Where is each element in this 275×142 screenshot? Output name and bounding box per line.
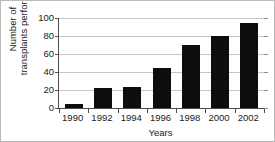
x-axis-tick-label: 1990 (62, 112, 83, 123)
bar (182, 45, 200, 108)
bar (94, 88, 112, 108)
bar-series (59, 18, 264, 108)
x-axis-tick-label: 2000 (208, 112, 229, 123)
y-axis-tick-label: 0 (31, 103, 54, 113)
bar (123, 87, 141, 108)
y-axis-title-line-2: transplants performed (18, 0, 30, 75)
x-axis-tick-label: 1998 (179, 112, 200, 123)
x-axis-tick-label: 1996 (150, 112, 171, 123)
y-axis-tick-mark-right (264, 18, 268, 19)
x-axis-tick-labels: 1990199219941996199820002002 (58, 112, 263, 124)
y-axis-tick-label: 20 (31, 85, 54, 95)
x-axis-tick-mark (264, 109, 265, 113)
bar (240, 23, 258, 108)
y-axis-tick-labels: 020406080100 (31, 18, 54, 108)
y-axis-tick-label: 80 (31, 31, 54, 41)
y-axis-tick-label: 100 (31, 13, 54, 23)
y-axis-tick-mark-right (264, 72, 268, 73)
bar-chart-figure: Number of transplants performed 02040608… (0, 0, 275, 142)
y-axis-tick-mark-right (264, 90, 268, 91)
y-axis-title-line-1: Number of (7, 7, 19, 51)
x-axis-tick-label: 1994 (121, 112, 142, 123)
y-axis-tick-label: 40 (31, 67, 54, 77)
bar (65, 104, 83, 108)
bar (211, 36, 229, 108)
y-axis-tick-mark-right (264, 36, 268, 37)
x-axis-tick-label: 1992 (91, 112, 112, 123)
y-axis-tick-mark-right (264, 54, 268, 55)
bar (153, 68, 171, 109)
x-axis-tick-label: 2002 (238, 112, 259, 123)
x-axis-title: Years (58, 127, 263, 138)
plot-area (58, 18, 264, 109)
y-axis-title: Number of transplants performed (3, 0, 33, 77)
y-axis-tick-label: 60 (31, 49, 54, 59)
